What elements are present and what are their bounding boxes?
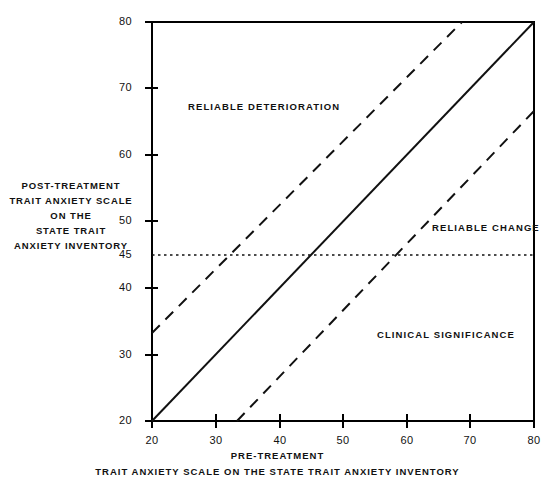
y-tick-label-70: 70 [94,81,132,93]
y-axis-title-line-4: STATE TRAIT [8,223,134,238]
annotation-reliable-deterioration: RELIABLE DETERIORATION [188,101,340,112]
x-tick-label-70: 70 [450,434,490,446]
y-tick-label-30: 30 [94,348,132,360]
y-axis-title-line-5: ANXIETY INVENTORY [8,238,134,253]
y-tick-label-20: 20 [94,414,132,426]
x-axis-title-line-2: TRAIT ANXIETY SCALE ON THE STATE TRAIT A… [0,464,555,480]
x-tick-label-30: 30 [196,434,236,446]
annotation-clinical-significance: CLINICAL SIGNIFICANCE [377,329,515,340]
y-tick-label-40: 40 [94,281,132,293]
y-axis-title-line-3: ON THE [8,208,134,223]
y-axis-title-line-2: TRAIT ANXIETY SCALE [8,193,134,208]
y-axis-title-line-1: POST-TREATMENT [8,178,134,193]
y-tick-label-80: 80 [94,15,132,27]
x-axis-title: PRE-TREATMENT TRAIT ANXIETY SCALE ON THE… [0,448,555,480]
chart-figure: 80 70 60 50 45 40 30 20 20 30 40 50 60 7… [0,0,555,486]
y-tick-label-60: 60 [94,148,132,160]
x-tick-label-60: 60 [387,434,427,446]
annotation-reliable-change: RELIABLE CHANGE [432,222,540,233]
x-tick-label-40: 40 [260,434,300,446]
x-tick-label-80: 80 [514,434,554,446]
y-axis-title: POST-TREATMENT TRAIT ANXIETY SCALE ON TH… [8,178,134,253]
x-axis-title-line-1: PRE-TREATMENT [0,448,555,464]
x-tick-label-20: 20 [132,434,172,446]
x-tick-label-50: 50 [323,434,363,446]
